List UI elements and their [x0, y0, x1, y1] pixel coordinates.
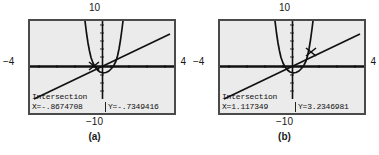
figure-two-calculator-screens: 10 −10 −4 4 — [0, 0, 379, 155]
status-x-value-a: X=-.8674708 — [32, 102, 83, 111]
window-xmax-label-b: 4 — [370, 56, 376, 67]
calculator-panel-a: 10 −10 −4 4 — [0, 0, 189, 155]
calculator-panel-b: 10 −10 −4 4 — [190, 0, 379, 155]
calculator-screen-a[interactable]: Intersection X=-.8674708 Y=-.7349416 — [28, 19, 176, 115]
status-title-b: Intersection — [222, 92, 277, 101]
status-divider-b — [295, 102, 296, 112]
window-xmax-label-a: 4 — [180, 56, 186, 67]
window-ymin-label-b: −10 — [276, 116, 293, 127]
calculator-screen-b[interactable]: Intersection X=1.117349 Y=3.2346981 — [218, 19, 366, 115]
window-ymax-label-a: 10 — [89, 2, 100, 13]
window-ymax-label-b: 10 — [279, 2, 290, 13]
window-xmin-label-b: −4 — [193, 56, 204, 67]
window-xmin-label-a: −4 — [3, 56, 14, 67]
status-x-value-b: X=1.117349 — [222, 102, 268, 111]
panel-caption-b: (b) — [278, 131, 291, 142]
status-bar-b: Intersection X=1.117349 Y=3.2346981 — [220, 91, 364, 113]
panel-caption-a: (a) — [88, 131, 100, 142]
status-y-value-a: Y=-.7349416 — [108, 102, 159, 111]
status-bar-a: Intersection X=-.8674708 Y=-.7349416 — [30, 91, 174, 113]
status-title-a: Intersection — [32, 92, 87, 101]
status-divider-a — [105, 102, 106, 112]
window-ymin-label-a: −10 — [86, 116, 103, 127]
status-y-value-b: Y=3.2346981 — [298, 102, 349, 111]
